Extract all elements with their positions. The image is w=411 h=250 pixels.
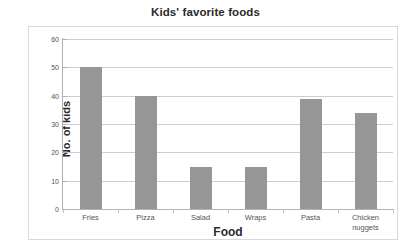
y-axis-tick-label: 20 — [33, 149, 59, 156]
y-axis-tick-mark — [63, 181, 67, 182]
x-axis-tick-label-line: Salad — [171, 213, 231, 223]
y-axis-tick-label: 50 — [33, 64, 59, 71]
y-axis-tick-mark — [63, 209, 67, 210]
x-axis-tick-label-line: Pasta — [281, 213, 341, 223]
gridline — [63, 39, 393, 40]
plot-area — [63, 39, 393, 209]
chart-frame: No. of kids 6050403020100 FriesPizzaSala… — [28, 26, 398, 240]
x-axis-tick-label-line: Pizza — [116, 213, 176, 223]
x-axis-tick-label: Pasta — [281, 213, 341, 223]
gridline — [63, 152, 393, 153]
x-axis-tick-label: Salad — [171, 213, 231, 223]
y-axis-tick-mark — [63, 39, 67, 40]
bar — [300, 99, 322, 210]
x-axis-title: Food — [63, 225, 393, 239]
bar — [135, 96, 157, 209]
gridline — [63, 124, 393, 125]
x-axis-tick-label-line: Fries — [61, 213, 121, 223]
y-axis-tick-label: 60 — [33, 36, 59, 43]
x-axis-tick-label: Fries — [61, 213, 121, 223]
y-axis-tick-label: 10 — [33, 177, 59, 184]
y-axis-tick-mark — [63, 124, 67, 125]
y-axis-tick-mark — [63, 96, 67, 97]
y-axis-tick-labels: 6050403020100 — [29, 39, 59, 209]
y-axis-tick-label: 40 — [33, 92, 59, 99]
gridline — [63, 67, 393, 68]
x-axis-tick-label-line: Chicken — [336, 213, 396, 223]
bar — [80, 67, 102, 209]
y-axis-tick-label: 0 — [33, 206, 59, 213]
x-axis-tick-label-line: Wraps — [226, 213, 286, 223]
y-axis-tick-mark — [63, 152, 67, 153]
gridline — [63, 96, 393, 97]
y-axis-tick-mark — [63, 67, 67, 68]
gridline — [63, 181, 393, 182]
bar — [355, 113, 377, 209]
bar — [245, 167, 267, 210]
bar — [190, 167, 212, 210]
x-axis-tick-label: Pizza — [116, 213, 176, 223]
y-axis-tick-label: 30 — [33, 121, 59, 128]
chart-title: Kids' favorite foods — [0, 6, 411, 18]
x-axis-tick-label: Wraps — [226, 213, 286, 223]
